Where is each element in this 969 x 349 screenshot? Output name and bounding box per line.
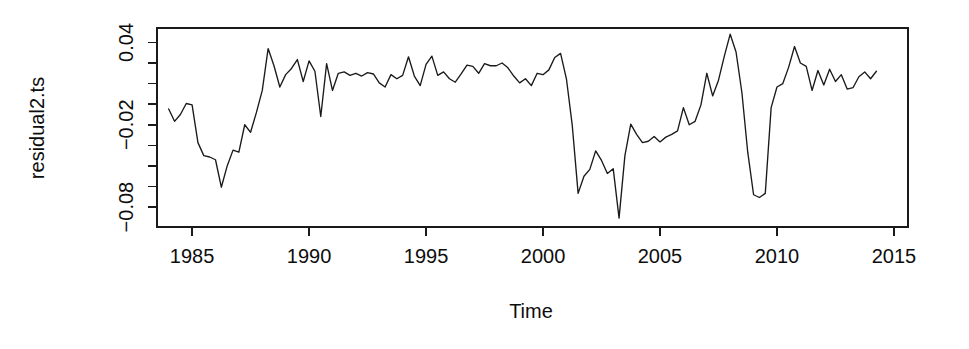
y-tick-label: −0.08 <box>115 182 137 233</box>
x-tick-label: 2010 <box>755 245 800 267</box>
x-axis-tick-labels: 1985199019952000200520102015 <box>170 245 916 267</box>
x-axis-title: Time <box>509 300 553 322</box>
x-tick-label: 2005 <box>638 245 683 267</box>
chart-screenshot: 0.04−0.02−0.08 1985199019952000200520102… <box>0 0 969 349</box>
y-tick-label: −0.02 <box>115 99 137 150</box>
series-line-residual2 <box>169 34 877 218</box>
residual-time-series-plot: 0.04−0.02−0.08 1985199019952000200520102… <box>0 0 969 349</box>
y-axis-title: residual2.ts <box>26 77 48 179</box>
y-tick-label: 0.04 <box>115 23 137 62</box>
x-tick-label: 1985 <box>170 245 215 267</box>
y-axis-tick-labels: 0.04−0.02−0.08 <box>115 23 137 232</box>
x-tick-label: 1995 <box>404 245 449 267</box>
x-axis-ticks <box>192 227 894 236</box>
plot-frame <box>157 28 908 227</box>
x-tick-label: 1990 <box>287 245 332 267</box>
x-tick-label: 2000 <box>521 245 566 267</box>
x-tick-label: 2015 <box>872 245 917 267</box>
y-axis-ticks <box>148 42 157 207</box>
